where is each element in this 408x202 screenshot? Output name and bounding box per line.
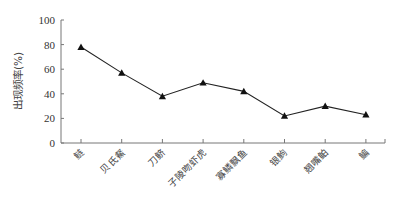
- x-category-label: 寡鳞飘鱼: [213, 147, 249, 183]
- y-axis-title: 出现频率(%): [12, 52, 24, 110]
- data-series: [77, 43, 369, 118]
- x-axis: 鲢贝氏䱗刀鲚子陵吻虾虎寡鳞飘鱼银鮈翘嘴鲌鳊: [61, 139, 385, 190]
- y-axis: 020406080100: [39, 14, 65, 149]
- triangle-marker-icon: [200, 79, 207, 85]
- triangle-marker-icon: [322, 103, 329, 109]
- triangle-marker-icon: [77, 43, 84, 49]
- y-tick-label: 40: [44, 88, 56, 100]
- triangle-marker-icon: [118, 69, 125, 75]
- y-tick-label: 0: [50, 137, 56, 149]
- x-category-label: 子陵吻虾虎: [165, 147, 208, 190]
- x-category-label: 银鮈: [268, 147, 290, 169]
- y-tick-label: 60: [44, 63, 56, 75]
- line-chart: 020406080100 鲢贝氏䱗刀鲚子陵吻虾虎寡鳞飘鱼银鮈翘嘴鲌鳊 出现频率(…: [0, 0, 408, 202]
- y-tick-label: 20: [44, 112, 56, 124]
- series-line: [81, 47, 366, 116]
- x-category-label: 刀鲚: [146, 147, 168, 169]
- x-category-label: 鳊: [356, 147, 371, 162]
- x-category-label: 翘嘴鲌: [302, 147, 331, 176]
- y-tick-label: 80: [44, 39, 56, 51]
- x-category-label: 贝氏䱗: [98, 147, 127, 176]
- y-tick-label: 100: [39, 14, 56, 26]
- x-category-label: 鲢: [72, 147, 87, 162]
